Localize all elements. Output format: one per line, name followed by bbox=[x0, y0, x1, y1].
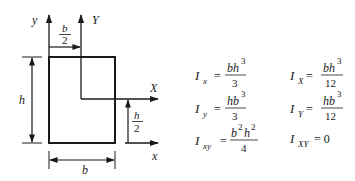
svg-text:4: 4 bbox=[241, 142, 247, 154]
width-label: b bbox=[82, 163, 88, 177]
svg-text:=: = bbox=[214, 102, 221, 116]
svg-text:I: I bbox=[289, 68, 295, 83]
y-axis-label: y bbox=[31, 13, 38, 27]
svg-text:3: 3 bbox=[232, 110, 238, 122]
formula-Ixy: I xy = b 2 h 2 4 bbox=[194, 122, 258, 154]
svg-text:Y: Y bbox=[298, 109, 304, 119]
diagram-canvas: y Y b 2 X x h 2 h b I x = bh 3 3 I y = h… bbox=[0, 0, 355, 181]
formula-IXY: I XY = 0 bbox=[289, 131, 330, 149]
svg-text:3: 3 bbox=[241, 89, 246, 99]
svg-text:y: y bbox=[202, 109, 207, 119]
svg-text:XY: XY bbox=[297, 139, 309, 149]
half-width-numerator: b bbox=[62, 22, 68, 34]
svg-text:bh: bh bbox=[323, 61, 335, 75]
svg-text:=: = bbox=[214, 69, 221, 83]
svg-text:x: x bbox=[202, 76, 207, 86]
svg-text:h: h bbox=[244, 126, 250, 140]
svg-text:=: = bbox=[306, 69, 313, 83]
rectangle-section bbox=[49, 57, 115, 143]
svg-text:2: 2 bbox=[251, 122, 256, 132]
svg-text:bh: bh bbox=[227, 61, 239, 75]
svg-text:I: I bbox=[289, 131, 295, 146]
svg-text:3: 3 bbox=[241, 56, 246, 66]
svg-text:12: 12 bbox=[325, 110, 336, 122]
formula-Iy: I y = hb 3 3 bbox=[194, 89, 246, 122]
section-diagram: y Y b 2 X x h 2 h b I x = bh 3 3 I y = h… bbox=[0, 0, 355, 181]
svg-text:xy: xy bbox=[202, 141, 211, 151]
svg-text:3: 3 bbox=[337, 89, 342, 99]
formula-Ix: I x = bh 3 3 bbox=[194, 56, 246, 89]
svg-text:2: 2 bbox=[238, 122, 243, 132]
Y-axis-label: Y bbox=[92, 13, 100, 27]
svg-text:=: = bbox=[306, 102, 313, 116]
half-height-numerator: h bbox=[134, 109, 140, 121]
half-height-denominator: 2 bbox=[134, 122, 140, 134]
svg-text:3: 3 bbox=[337, 56, 342, 66]
svg-text:hb: hb bbox=[227, 94, 239, 108]
svg-text:I: I bbox=[194, 101, 200, 116]
svg-text:3: 3 bbox=[232, 77, 238, 89]
height-label: h bbox=[19, 93, 25, 107]
svg-text:X: X bbox=[297, 76, 304, 86]
x-axis-label: x bbox=[151, 149, 158, 163]
formula-IY: I Y = hb 3 12 bbox=[289, 89, 343, 122]
half-width-denominator: 2 bbox=[62, 34, 68, 46]
svg-text:= 0: = 0 bbox=[314, 132, 330, 146]
svg-text:I: I bbox=[194, 68, 200, 83]
svg-text:I: I bbox=[194, 133, 200, 148]
X-axis-label: X bbox=[149, 81, 158, 95]
svg-text:12: 12 bbox=[325, 77, 336, 89]
svg-text:I: I bbox=[289, 101, 295, 116]
formula-IX: I X = bh 3 12 bbox=[289, 56, 343, 89]
svg-text:b: b bbox=[231, 126, 237, 140]
svg-text:hb: hb bbox=[323, 94, 335, 108]
svg-text:=: = bbox=[220, 134, 227, 148]
